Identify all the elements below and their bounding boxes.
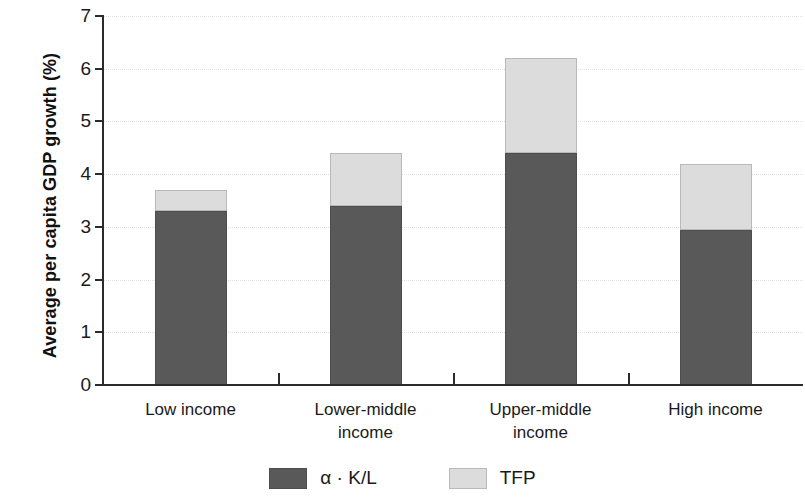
y-axis-tick-mark bbox=[95, 120, 104, 122]
x-axis-label-line: income bbox=[453, 422, 628, 445]
legend-swatch-light bbox=[449, 468, 487, 489]
bar-segment-capital-deepening[interactable] bbox=[330, 206, 402, 385]
bar-group[interactable] bbox=[330, 16, 402, 385]
y-axis-tick-label: 3 bbox=[51, 217, 91, 236]
legend-label: TFP bbox=[500, 467, 536, 489]
x-axis-tick-mark bbox=[453, 373, 455, 386]
y-axis-tick-labels: 01234567 bbox=[45, 0, 91, 499]
bar-segment-capital-deepening[interactable] bbox=[680, 230, 752, 386]
stacked-bar-chart: Average per capita GDP growth (%) 012345… bbox=[0, 0, 805, 499]
y-axis-tick-label: 4 bbox=[51, 164, 91, 183]
legend-item[interactable]: α · K/L bbox=[269, 467, 376, 489]
bar-segment-tfp[interactable] bbox=[505, 58, 577, 153]
y-axis-tick-mark bbox=[95, 279, 104, 281]
bar-segment-capital-deepening[interactable] bbox=[155, 211, 227, 385]
plot-area bbox=[103, 16, 803, 385]
x-axis-label-line: High income bbox=[628, 399, 803, 422]
y-axis-tick-label: 5 bbox=[51, 111, 91, 130]
bar-group[interactable] bbox=[505, 16, 577, 385]
legend-item[interactable]: TFP bbox=[449, 467, 536, 489]
x-axis-label: Upper-middleincome bbox=[453, 399, 628, 445]
y-axis-tick-mark bbox=[95, 331, 104, 333]
legend-label: α · K/L bbox=[320, 467, 376, 489]
y-axis-tick-label: 6 bbox=[51, 59, 91, 78]
x-axis-label-line: Lower-middle bbox=[278, 399, 453, 422]
x-axis-tick-mark bbox=[628, 373, 630, 386]
bar-group[interactable] bbox=[680, 16, 752, 385]
y-axis-tick-mark bbox=[95, 68, 104, 70]
bar-segment-tfp[interactable] bbox=[680, 164, 752, 230]
y-axis-tick-label: 2 bbox=[51, 270, 91, 289]
x-axis-label: Lower-middleincome bbox=[278, 399, 453, 445]
bar-segment-tfp[interactable] bbox=[330, 153, 402, 206]
x-axis-tick-mark bbox=[278, 373, 280, 386]
x-axis-label-line: Upper-middle bbox=[453, 399, 628, 422]
x-axis-label-line: income bbox=[278, 422, 453, 445]
legend-swatch-dark bbox=[269, 468, 307, 489]
y-axis-tick-label: 7 bbox=[51, 6, 91, 25]
y-axis-tick-mark bbox=[95, 173, 104, 175]
y-axis-tick-mark bbox=[95, 226, 104, 228]
y-axis-tick-label: 0 bbox=[51, 375, 91, 394]
x-axis-label: Low income bbox=[103, 399, 278, 422]
bar-segment-capital-deepening[interactable] bbox=[505, 153, 577, 385]
y-axis-tick-mark bbox=[95, 15, 104, 17]
y-axis-tick-mark bbox=[95, 384, 104, 386]
x-axis-label: High income bbox=[628, 399, 803, 422]
x-axis-label-line: Low income bbox=[103, 399, 278, 422]
chart-legend: α · K/LTFP bbox=[0, 467, 805, 489]
bar-group[interactable] bbox=[155, 16, 227, 385]
bar-segment-tfp[interactable] bbox=[155, 190, 227, 211]
y-axis-tick-label: 1 bbox=[51, 322, 91, 341]
